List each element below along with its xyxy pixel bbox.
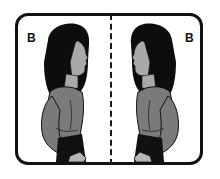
- mirror-line-divider: [110, 14, 112, 165]
- panel-label-right: B: [185, 32, 194, 44]
- mirror-diagram: B B: [0, 0, 220, 179]
- panel-label-left: B: [27, 32, 36, 44]
